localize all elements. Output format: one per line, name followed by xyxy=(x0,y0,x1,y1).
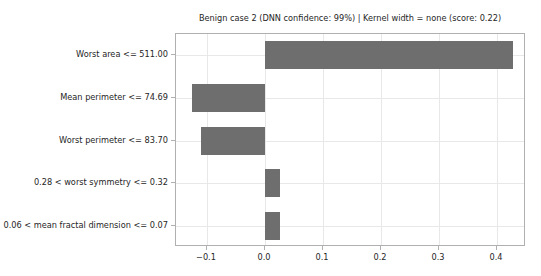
plot-area xyxy=(175,33,525,246)
bar-worst-area xyxy=(265,41,513,69)
x-tick-label: 0.1 xyxy=(315,252,328,262)
x-tick-mark xyxy=(438,246,439,250)
y-tick-label: 0.28 < worst symmetry <= 0.32 xyxy=(34,177,168,187)
x-tick-label: −0.1 xyxy=(196,252,216,262)
y-axis-labels: Worst area <= 511.00 Mean perimeter <= 7… xyxy=(0,33,168,246)
x-tick-mark xyxy=(322,246,323,250)
y-tick-label: 0.06 < mean fractal dimension <= 0.07 xyxy=(3,220,168,230)
x-tick-mark xyxy=(380,246,381,250)
y-tick-label: Worst perimeter <= 83.70 xyxy=(59,135,168,145)
bar-worst-symmetry xyxy=(265,169,280,197)
bar-mean-fractal-dimension xyxy=(265,212,280,240)
x-tick-mark xyxy=(496,246,497,250)
y-tick-label: Mean perimeter <= 74.69 xyxy=(60,92,168,102)
gridline-y xyxy=(176,183,524,184)
x-tick-mark xyxy=(264,246,265,250)
gridline-y xyxy=(176,226,524,227)
bar-worst-perimeter xyxy=(201,127,266,155)
x-tick-mark xyxy=(206,246,207,250)
x-tick-label: 0.3 xyxy=(431,252,444,262)
bar-mean-perimeter xyxy=(192,84,265,112)
x-tick-label: 0.2 xyxy=(373,252,386,262)
x-tick-label: 0.0 xyxy=(257,252,270,262)
chart-title: Benign case 2 (DNN confidence: 99%) | Ke… xyxy=(175,13,525,24)
y-tick-label: Worst area <= 511.00 xyxy=(76,49,168,59)
chart-figure: Benign case 2 (DNN confidence: 99%) | Ke… xyxy=(0,0,541,276)
x-tick-label: 0.4 xyxy=(489,252,502,262)
